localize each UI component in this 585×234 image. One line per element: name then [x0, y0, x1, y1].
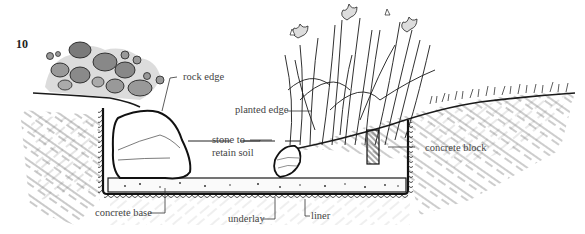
- underlay-scallops: [104, 194, 408, 199]
- label-stone-line1: stone to: [212, 133, 245, 146]
- leader-rock-edge: [162, 77, 177, 111]
- diagram-illustration: [0, 0, 585, 234]
- underlay-right-scallops: [408, 122, 413, 194]
- figure-number: 10: [16, 37, 28, 52]
- large-rock: [113, 111, 190, 179]
- label-concrete-block: concrete block: [425, 141, 487, 154]
- concrete-base-slab: [108, 178, 406, 192]
- underlay-left-scallops: [98, 110, 103, 194]
- label-planted-edge: planted edge: [235, 103, 288, 116]
- soil-left: [20, 110, 100, 225]
- label-stone-line2: retain soil: [212, 146, 254, 159]
- ivy-foliage: [45, 42, 164, 100]
- pond-edge-diagram: 10 rock edge planted edge stone to retai…: [0, 0, 585, 234]
- label-liner: liner: [311, 209, 330, 222]
- label-concrete-base: concrete base: [95, 206, 152, 219]
- retaining-stone: [274, 146, 300, 177]
- label-underlay: underlay: [228, 212, 265, 225]
- label-rock-edge: rock edge: [183, 70, 224, 83]
- concrete-block-shape: [367, 130, 379, 164]
